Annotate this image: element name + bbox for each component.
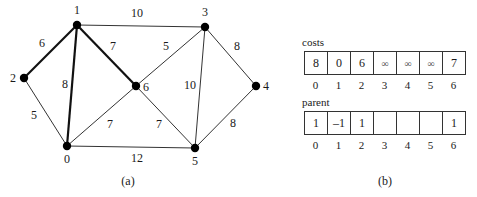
costs-cell-6: 7 (443, 52, 465, 74)
edge-weight-1-2: 6 (39, 36, 45, 50)
arrays-caption: (b) (378, 174, 392, 189)
parent-index-0: 0 (304, 139, 327, 151)
edge-weight-0-5: 12 (131, 151, 143, 165)
costs-index-4: 4 (396, 79, 419, 91)
node-label-3: 3 (202, 5, 208, 19)
parent-index-4: 4 (396, 139, 419, 151)
edge-weight-6-3: 5 (163, 39, 169, 53)
costs-index-1: 1 (327, 79, 350, 91)
edge-weight-3-5: 10 (184, 78, 196, 92)
node-4 (252, 82, 260, 90)
parent-title: parent (302, 96, 329, 108)
costs-title: costs (302, 36, 324, 48)
costs-cell-5: ∞ (420, 52, 443, 74)
parent-index-1: 1 (327, 139, 350, 151)
edge-weight-6-5: 7 (156, 117, 162, 131)
parent-index-3: 3 (373, 139, 396, 151)
node-label-5: 5 (192, 154, 198, 168)
node-label-2: 2 (10, 71, 16, 85)
node-label-1: 1 (74, 3, 80, 17)
parent-cell-0: 1 (305, 112, 328, 134)
graph-caption: (a) (121, 174, 134, 188)
node-0 (63, 142, 71, 150)
costs-index-2: 2 (350, 79, 373, 91)
node-label-6: 6 (143, 80, 149, 94)
edge-1-2 (24, 25, 77, 78)
graph-nodes (20, 21, 260, 152)
parent-index-2: 2 (350, 139, 373, 151)
costs-array: 806∞∞∞7 (304, 51, 466, 75)
costs-index-0: 0 (304, 79, 327, 91)
costs-cell-0: 8 (305, 52, 328, 74)
node-3 (201, 23, 209, 31)
node-6 (132, 82, 140, 90)
parent-cell-6: 1 (443, 112, 465, 134)
edge-weight-3-4: 8 (234, 39, 240, 53)
parent-indices: 0123456 (304, 139, 465, 151)
edge-1-6 (77, 25, 136, 86)
parent-cell-3 (374, 112, 397, 134)
edge-weight-1-0: 8 (62, 77, 68, 91)
costs-index-6: 6 (442, 79, 465, 91)
costs-cell-4: ∞ (397, 52, 420, 74)
parent-cell-2: 1 (351, 112, 374, 134)
edge-weight-1-3: 10 (131, 6, 143, 20)
edge-weight-2-0: 5 (31, 108, 37, 122)
costs-cell-2: 6 (351, 52, 374, 74)
node-2 (20, 74, 28, 82)
node-5 (191, 144, 199, 152)
weighted-graph: 687105712571088 0123456 (a) (0, 0, 290, 197)
node-1 (73, 21, 81, 29)
edge-0-5 (67, 146, 195, 148)
parent-cell-5 (420, 112, 443, 134)
costs-index-3: 3 (373, 79, 396, 91)
edge-3-5 (195, 27, 205, 148)
edge-weight-1-6: 7 (110, 39, 116, 53)
edge-0-6 (67, 86, 136, 146)
edge-6-5 (136, 86, 195, 148)
node-label-4: 4 (263, 79, 269, 93)
edge-weight-5-4: 8 (230, 116, 236, 130)
edge-weight-0-6: 7 (107, 117, 113, 131)
node-label-0: 0 (64, 152, 70, 166)
edge-1-3 (77, 25, 205, 27)
edge-3-4 (205, 27, 256, 86)
edge-1-0 (67, 25, 77, 146)
costs-cell-3: ∞ (374, 52, 397, 74)
edge-5-4 (195, 86, 256, 148)
parent-cell-4 (397, 112, 420, 134)
costs-indices: 0123456 (304, 79, 465, 91)
parent-index-6: 6 (442, 139, 465, 151)
costs-cell-1: 0 (328, 52, 351, 74)
costs-index-5: 5 (419, 79, 442, 91)
parent-index-5: 5 (419, 139, 442, 151)
parent-cell-1: –1 (328, 112, 351, 134)
parent-array: 1–111 (304, 111, 466, 135)
